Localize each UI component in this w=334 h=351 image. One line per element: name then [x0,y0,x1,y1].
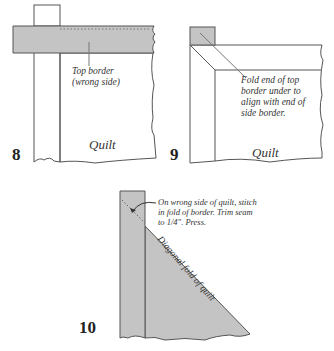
quilt-diagram [0,0,334,351]
callout-line: to 1/4". Press. [158,217,257,227]
panel-9-quilt-label: Quilt [252,145,279,161]
callout-line: Fold end of top [241,75,305,86]
panel-8-callout: Top border (wrong side) [72,66,120,88]
callout-line: Top border [72,66,120,77]
callout-line: align with end of [241,97,305,108]
panel-10-number: 10 [79,318,96,338]
callout-line: On wrong side of quilt, stitch [158,197,257,207]
panel-8-number: 8 [12,145,21,165]
callout-line: border under to [241,86,305,97]
panel-10-callout: On wrong side of quilt, stitch in fold o… [158,197,257,227]
callout-line: side border. [241,108,305,119]
panel-8-quilt-label: Quilt [89,137,116,153]
callout-line: (wrong side) [72,77,120,88]
panel-9-callout: Fold end of top border under to align wi… [241,75,305,119]
callout-line: in fold of border. Trim seam [158,207,257,217]
panel-9-number: 9 [170,145,179,165]
